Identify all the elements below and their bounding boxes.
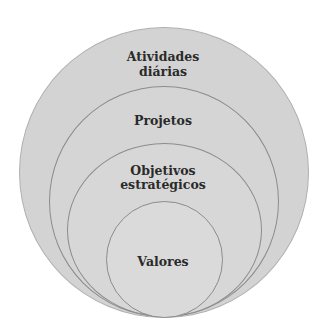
label-projetos: Projetos — [0, 114, 326, 128]
nested-circles-diagram: Atividades diárias Projetos Objetivos es… — [0, 0, 326, 335]
label-diarias: diárias — [0, 65, 326, 79]
label-estrategicos: estratégicos — [0, 178, 326, 192]
label-atividades: Atividades — [0, 50, 326, 64]
label-objetivos: Objetivos — [0, 164, 326, 178]
label-valores: Valores — [0, 255, 326, 269]
